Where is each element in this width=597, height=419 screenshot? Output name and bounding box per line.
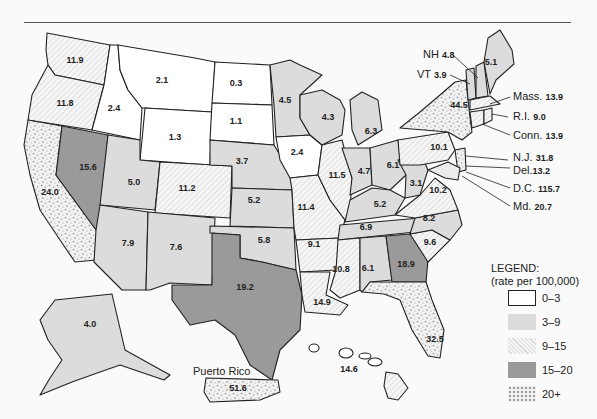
label-ky: 5.2 <box>374 199 387 209</box>
state-ct <box>470 110 484 128</box>
callout-nj: N.J. 31.8 <box>513 151 553 163</box>
label-va: 10.2 <box>429 185 447 195</box>
label-ar: 9.1 <box>308 239 321 249</box>
state-md <box>428 162 460 180</box>
callout-de: Del.13.2 <box>513 164 550 176</box>
callout-ma: Mass. 13.9 <box>513 90 563 102</box>
legend-title: LEGEND: <box>491 262 597 275</box>
label-ca: 24.0 <box>41 187 59 197</box>
label-fl: 32.5 <box>426 334 444 344</box>
label-sc: 9.6 <box>424 237 437 247</box>
label-nc: 8.2 <box>423 213 436 223</box>
label-ms: 10.8 <box>332 264 350 274</box>
label-ks: 5.2 <box>248 195 261 205</box>
label-pr: 51.6 <box>229 383 247 393</box>
label-oh: 6.1 <box>387 160 400 170</box>
state-vt <box>466 68 476 100</box>
label-wv: 3.1 <box>410 178 423 188</box>
label-nv: 15.6 <box>79 162 97 172</box>
swatch-3-9 <box>508 314 536 330</box>
callout-ct: Conn. 13.9 <box>513 129 563 141</box>
label-wy: 1.3 <box>169 132 182 142</box>
state-fl <box>362 282 444 358</box>
label-tx: 19.2 <box>236 282 254 292</box>
label-ok: 5.8 <box>258 235 271 245</box>
label-tn: 6.9 <box>360 222 373 232</box>
label-al: 6.1 <box>362 263 375 273</box>
label-sd: 1.1 <box>230 116 243 126</box>
label-ne: 3.7 <box>236 156 249 166</box>
label-ga: 18.9 <box>397 259 415 269</box>
label-il: 11.5 <box>328 170 345 180</box>
state-mi <box>350 92 382 145</box>
callout-vt: VT 3.9 <box>417 68 446 80</box>
label-hi: 14.6 <box>340 364 358 374</box>
state-ny <box>400 80 472 140</box>
label-ut: 5.0 <box>128 177 141 187</box>
swatch-0-3 <box>508 290 536 306</box>
state-ks <box>230 188 294 228</box>
label-co: 11.2 <box>178 183 195 193</box>
label-in: 4.7 <box>358 166 371 176</box>
callout-ri: R.I. 9.0 <box>513 110 546 122</box>
label-nm: 7.6 <box>170 242 183 252</box>
callout-md: Md. 20.7 <box>513 200 552 212</box>
label-mn: 4.5 <box>279 95 292 105</box>
legend-item-9-15: 9–15 <box>508 338 566 354</box>
label-id: 2.4 <box>108 103 121 113</box>
legend: LEGEND: (rate per 100,000) 0–3 3–9 9–15 … <box>493 262 597 288</box>
label-nd: 0.3 <box>230 78 243 88</box>
label-la: 14.9 <box>313 297 331 307</box>
label-me: 5.1 <box>485 57 498 67</box>
label-wa: 11.9 <box>66 55 83 65</box>
legend-item-15-20: 15–20 <box>508 362 573 378</box>
callout-dc: D.C. 115.7 <box>513 182 560 194</box>
label-wi: 4.3 <box>322 112 335 122</box>
label-mi: 6.3 <box>365 126 378 136</box>
state-ak <box>40 294 170 395</box>
label-az: 7.9 <box>122 238 135 248</box>
label-mo: 11.4 <box>297 202 314 212</box>
state-ri <box>484 108 492 124</box>
legend-item-20plus: 20+ <box>508 386 561 402</box>
label-ia: 2.4 <box>291 147 304 157</box>
swatch-15-20 <box>508 362 536 378</box>
puerto-rico-label: Puerto Rico <box>193 365 250 377</box>
swatch-20plus <box>508 386 536 402</box>
legend-item-3-9: 3–9 <box>508 314 560 330</box>
legend-subtitle: (rate per 100,000) <box>491 275 597 288</box>
label-ak: 4.0 <box>84 319 97 329</box>
state-hi <box>309 344 408 400</box>
label-or: 11.8 <box>56 98 73 108</box>
swatch-9-15 <box>508 338 536 354</box>
label-mt: 2.1 <box>156 75 169 85</box>
label-ny: 44.5 <box>450 100 468 110</box>
callout-nh: NH 4.8 <box>423 48 454 60</box>
legend-item-0-3: 0–3 <box>508 290 560 306</box>
label-pa: 10.1 <box>430 142 448 152</box>
